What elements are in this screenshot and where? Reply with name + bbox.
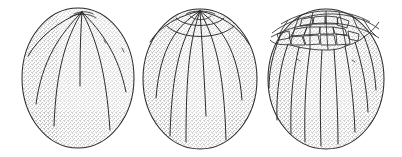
- panel-stage-1: [18, 6, 140, 152]
- illustration-plate: Three successive cleavage stages of an o…: [0, 0, 402, 157]
- panel-stage-3: [264, 6, 390, 154]
- cleavage-stages-drawing: [0, 0, 402, 157]
- panel-stage-2: [140, 6, 264, 154]
